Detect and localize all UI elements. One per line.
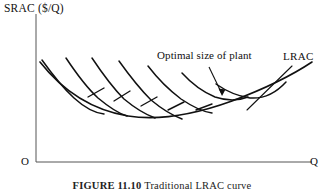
cost-curve-plot <box>0 0 324 189</box>
optimal-size-of-plant-label: Optimal size of plant <box>157 50 252 61</box>
y-axis-label: SRAC ($/Q) <box>4 3 64 15</box>
figure-caption: FIGURE 11.10 Traditional LRAC curve <box>0 180 324 189</box>
origin-label: O <box>21 156 29 167</box>
srac-curve-group <box>42 58 286 119</box>
lrac-label: LRAC <box>283 51 314 62</box>
tangency-tick <box>168 102 184 110</box>
figure-caption-number: FIGURE 11.10 <box>73 180 142 189</box>
lrac-leader-line <box>247 66 292 110</box>
optimal-size-arrow <box>209 67 226 96</box>
figure-caption-text: Traditional LRAC curve <box>144 180 251 189</box>
tangency-tick <box>114 91 130 101</box>
lrac-envelope-curve <box>40 62 312 118</box>
x-axis-label: Q <box>310 156 318 167</box>
srac-curve-7 <box>216 82 286 98</box>
figure-traditional-lrac-curve: SRAC ($/Q) O Q Optimal size of plant LRA… <box>0 0 324 189</box>
